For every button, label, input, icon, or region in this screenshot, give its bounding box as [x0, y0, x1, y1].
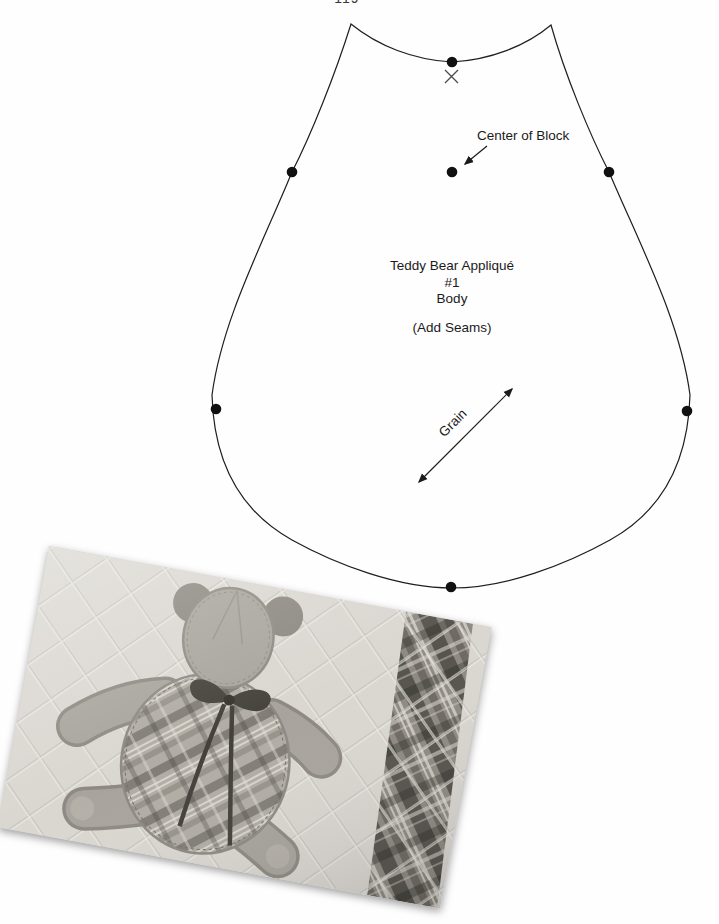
- match-dot: [211, 404, 222, 415]
- seam-note: (Add Seams): [413, 320, 492, 335]
- match-dot: [287, 167, 298, 178]
- center-of-block-label: Center of Block: [477, 128, 570, 143]
- piece-name: Body: [437, 291, 468, 306]
- book-page: 119 Center of Block Teddy Bear Appliqué …: [0, 0, 719, 924]
- match-dot: [446, 582, 457, 593]
- grain-arrow: [419, 389, 512, 482]
- piece-title: Teddy Bear Appliqué: [390, 258, 514, 273]
- match-dot: [447, 57, 458, 68]
- x-mark: [445, 70, 458, 83]
- center-of-block-arrow: [465, 146, 487, 164]
- pattern-outline: [212, 24, 690, 588]
- match-dot: [682, 406, 693, 417]
- piece-number: #1: [444, 275, 459, 290]
- match-dot: [604, 167, 615, 178]
- grain-label: Grain: [436, 406, 470, 440]
- center-of-block-dot: [447, 167, 458, 178]
